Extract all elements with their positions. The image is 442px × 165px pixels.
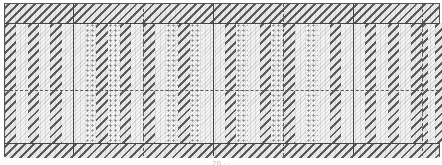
- weave-chart: [4, 3, 440, 157]
- panel-stripe-light: [248, 23, 260, 143]
- panel-stripe-light: [399, 23, 411, 143]
- panel-stripe-light: [73, 23, 85, 143]
- panel-stripe-light: [201, 23, 213, 143]
- panel-stripe-dark: [143, 23, 155, 143]
- chart-caption: 20 · ·: [0, 160, 442, 165]
- panel-stripe-light: [213, 23, 225, 143]
- panel-stripe-light: [131, 23, 143, 143]
- panel-stripe-dots: [190, 23, 202, 143]
- panel-stripe-dark: [411, 23, 423, 143]
- panel-stripe-dark: [96, 23, 108, 143]
- horizontal-grid-line: [5, 143, 439, 144]
- panel-stripe-light: [341, 23, 353, 143]
- panel-stripe-dots: [166, 23, 178, 143]
- panel-stripe-light: [39, 23, 51, 143]
- panel-area: [5, 23, 439, 143]
- panel-stripe-dots: [236, 23, 248, 143]
- panel-stripe-light: [16, 23, 28, 143]
- panel-stripe-dark: [178, 23, 190, 143]
- panel-stripe-light: [376, 23, 388, 143]
- panel-stripe-light: [155, 23, 167, 143]
- panel-stripe-dots: [306, 23, 318, 143]
- panel-stripe-dark: [388, 23, 400, 143]
- panel-stripe-dark: [260, 23, 272, 143]
- panel-stripe-dark: [120, 23, 132, 143]
- horizontal-grid-line: [5, 90, 439, 91]
- panel-stripe-dark: [225, 23, 237, 143]
- panel-stripe-dark: [435, 23, 442, 143]
- horizontal-grid-line: [5, 23, 439, 24]
- panel-stripe-dark: [50, 23, 62, 143]
- panel-stripe-dark: [365, 23, 377, 143]
- vertical-grid-line: [213, 4, 214, 156]
- panel-stripe-dots: [108, 23, 120, 143]
- panel-stripe-dark: [28, 23, 40, 143]
- panel-stripe-dark: [5, 23, 17, 143]
- bottom-stripe-band: [5, 143, 439, 158]
- panel-stripe-light: [353, 23, 365, 143]
- panel-stripe-light: [295, 23, 307, 143]
- vertical-grid-line: [283, 4, 284, 156]
- vertical-grid-line: [143, 4, 144, 156]
- panel-stripe-light: [318, 23, 330, 143]
- vertical-grid-line: [73, 4, 74, 156]
- top-stripe-band: [5, 4, 439, 23]
- panel-stripe-light: [62, 23, 74, 143]
- vertical-grid-line: [422, 4, 423, 156]
- panel-stripe-dark: [283, 23, 295, 143]
- panel-stripe-dots: [85, 23, 97, 143]
- panel-stripe-dots: [271, 23, 283, 143]
- vertical-grid-line: [353, 4, 354, 156]
- panel-stripe-dark: [330, 23, 342, 143]
